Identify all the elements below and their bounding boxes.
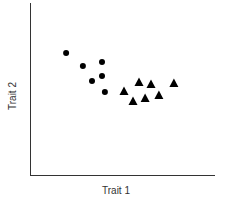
- circle-marker: [99, 73, 105, 79]
- triangle-marker: [169, 79, 178, 88]
- triangle-marker: [141, 93, 150, 102]
- circle-marker: [102, 89, 108, 95]
- x-axis-label: Trait 1: [102, 185, 130, 196]
- triangle-marker: [147, 80, 156, 89]
- circle-marker: [80, 63, 86, 69]
- circle-marker: [63, 50, 69, 56]
- data-points: [63, 50, 178, 105]
- triangle-marker: [129, 97, 138, 106]
- scatter-chart: Trait 1 Trait 2: [0, 0, 231, 209]
- circle-marker: [99, 59, 105, 65]
- triangle-marker: [154, 91, 163, 100]
- triangle-marker: [135, 77, 144, 86]
- y-axis-label: Trait 2: [7, 82, 18, 110]
- circle-marker: [89, 78, 95, 84]
- triangle-marker: [120, 87, 129, 96]
